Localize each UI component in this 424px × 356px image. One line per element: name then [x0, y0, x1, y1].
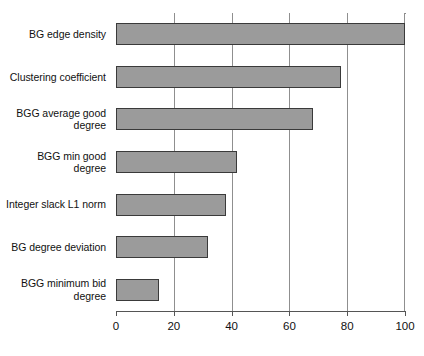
bar-row [116, 183, 405, 226]
category-label: BGG min good degree [0, 141, 112, 184]
category-axis-labels: BG edge density Clustering coefficient B… [0, 13, 112, 311]
bar-row [116, 268, 405, 311]
bar-chart: BG edge density Clustering coefficient B… [0, 0, 424, 356]
x-tick-mark [405, 311, 406, 316]
bar-row [116, 98, 405, 141]
x-tick-mark [347, 311, 348, 316]
category-label: BGG minimum bid degree [0, 268, 112, 311]
x-tick-mark [116, 311, 117, 316]
category-label: Clustering coefficient [0, 56, 112, 99]
x-tick-label: 0 [113, 320, 119, 333]
bar-row [116, 141, 405, 184]
bar [116, 279, 159, 301]
x-tick-mark [174, 311, 175, 316]
category-label: Integer slack L1 norm [0, 183, 112, 226]
plot-area [116, 13, 405, 311]
x-tick-label: 80 [341, 320, 354, 333]
x-tick-label: 60 [283, 320, 296, 333]
bar [116, 194, 226, 216]
category-label: BG degree deviation [0, 226, 112, 269]
bar [116, 236, 208, 258]
bar-row [116, 56, 405, 99]
x-tick-label: 40 [225, 320, 238, 333]
x-tick-label: 100 [395, 320, 414, 333]
x-tick-mark [232, 311, 233, 316]
bar [116, 151, 237, 173]
x-tick-label: 20 [167, 320, 180, 333]
category-label: BG edge density [0, 13, 112, 56]
x-axis-line [116, 311, 406, 312]
bar-row [116, 13, 405, 56]
bar-row [116, 226, 405, 269]
bar [116, 66, 341, 88]
x-tick-mark [289, 311, 290, 316]
bar [116, 108, 313, 130]
bar [116, 23, 405, 45]
category-label: BGG average good degree [0, 98, 112, 141]
